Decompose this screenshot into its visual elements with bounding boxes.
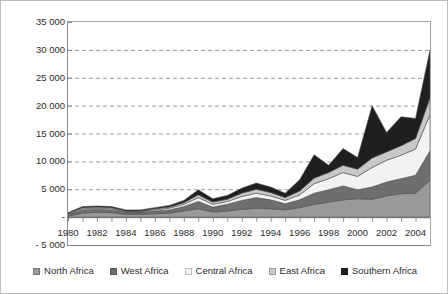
y-axis-tick-label: 35 000 xyxy=(5,17,65,27)
y-axis-tick-label: 5 000 xyxy=(5,185,65,195)
legend-label: North Africa xyxy=(44,266,94,276)
legend-label: East Africa xyxy=(280,266,325,276)
y-axis-tick-label: 25 000 xyxy=(5,73,65,83)
legend-item[interactable]: Central Africa xyxy=(185,266,253,276)
legend-label: Central Africa xyxy=(196,266,253,276)
plot-area xyxy=(67,21,431,246)
x-axis-tick-label: 1994 xyxy=(260,228,281,238)
x-axis-tick-label: 1990 xyxy=(202,228,223,238)
x-axis-tick-label: 1986 xyxy=(144,228,165,238)
x-axis-tick-label: 2002 xyxy=(376,228,397,238)
x-axis-tick-label: 1982 xyxy=(86,228,107,238)
x-axis-tick-label: 1998 xyxy=(318,228,339,238)
x-axis-tick-label: 1984 xyxy=(115,228,136,238)
y-axis: 35 00030 00025 00020 00015 00010 0005 00… xyxy=(1,1,65,294)
legend-item[interactable]: North Africa xyxy=(33,266,94,276)
x-axis-tick-label: 2004 xyxy=(405,228,426,238)
x-axis-tick-label: 1988 xyxy=(173,228,194,238)
y-axis-tick-label: 10 000 xyxy=(5,157,65,167)
x-axis-tick-label: 1980 xyxy=(57,228,78,238)
y-axis-tick-label: 15 000 xyxy=(5,129,65,139)
legend-swatch-icon xyxy=(185,268,192,275)
legend-item[interactable]: East Africa xyxy=(269,266,325,276)
legend-item[interactable]: West Africa xyxy=(110,266,169,276)
legend-swatch-icon xyxy=(110,268,117,275)
legend-label: Southern Africa xyxy=(352,266,417,276)
x-axis-tick-label: 1996 xyxy=(289,228,310,238)
stacked-area-chart xyxy=(68,22,430,245)
legend-swatch-icon xyxy=(269,268,276,275)
y-axis-tick-label: - xyxy=(5,212,65,222)
x-axis-tick-label: 2000 xyxy=(347,228,368,238)
legend-swatch-icon xyxy=(341,268,348,275)
legend-item[interactable]: Southern Africa xyxy=(341,266,417,276)
y-axis-tick-label: 20 000 xyxy=(5,101,65,111)
x-axis: 1980198219841986198819901992199419961998… xyxy=(67,228,431,242)
legend-swatch-icon xyxy=(33,268,40,275)
y-axis-tick-label: - 5 000 xyxy=(5,240,65,250)
chart-legend: North AfricaWest AfricaCentral AfricaEas… xyxy=(1,263,448,279)
x-axis-tick-label: 1992 xyxy=(231,228,252,238)
legend-label: West Africa xyxy=(121,266,169,276)
y-axis-tick-label: 30 000 xyxy=(5,45,65,55)
chart-figure: 35 00030 00025 00020 00015 00010 0005 00… xyxy=(0,0,448,294)
